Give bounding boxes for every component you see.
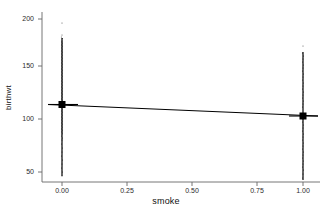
mean-marker-smoke-0 xyxy=(48,38,78,176)
y-axis-ticks xyxy=(38,19,42,172)
y-tick-label-50: 50 xyxy=(8,168,34,175)
x-tick-label-050: 0.50 xyxy=(177,187,207,194)
x-axis-ticks xyxy=(62,182,303,186)
x-tick-label-025: 0.25 xyxy=(112,187,142,194)
y-tick-label-200: 200 xyxy=(8,15,34,22)
x-tick-label-1: 1.00 xyxy=(288,187,318,194)
y-axis-title: birthwt xyxy=(4,68,13,128)
scatter-plot-svg xyxy=(0,0,332,212)
x-axis-title: smoke xyxy=(0,196,332,206)
x-tick-label-0: 0.00 xyxy=(47,187,77,194)
fitted-regression-line xyxy=(48,105,318,117)
x-tick-label-075: 0.75 xyxy=(242,187,272,194)
mean-marker-smoke-1 xyxy=(289,52,318,180)
chart-plot-area: 200 150 100 50 0.00 0.25 0.50 0.75 1.00 … xyxy=(0,0,332,212)
